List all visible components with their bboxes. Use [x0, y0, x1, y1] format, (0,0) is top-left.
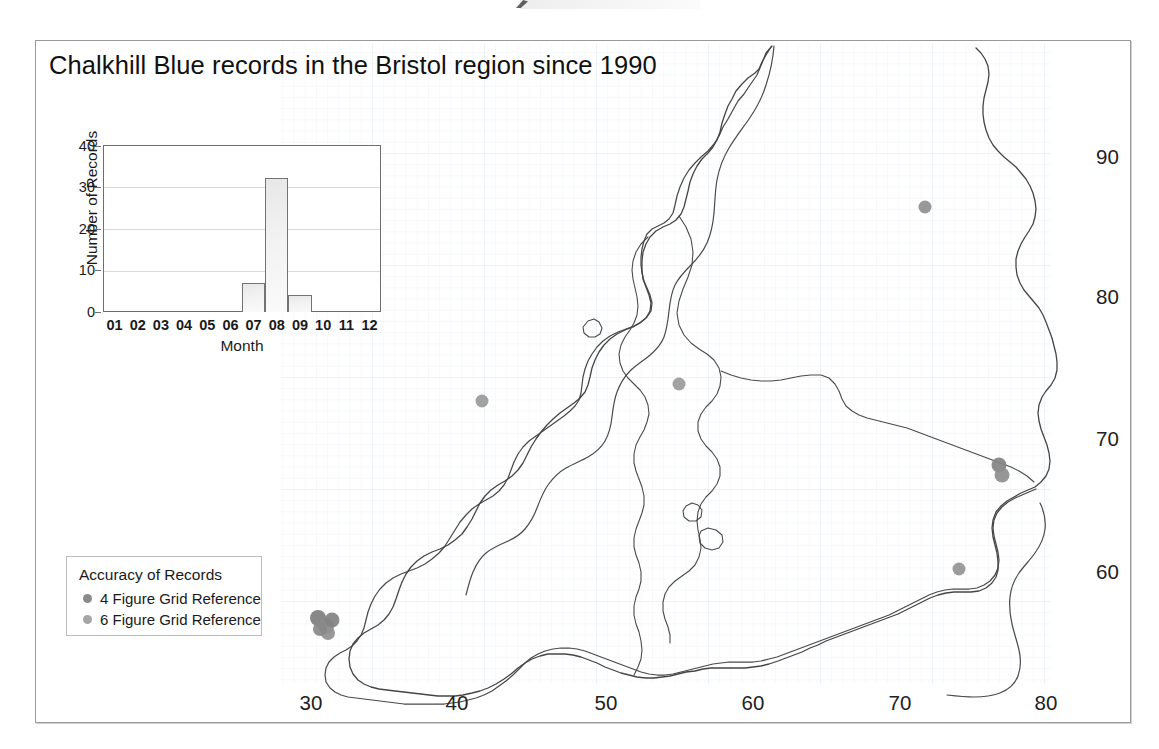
bar-cell-11: [335, 145, 358, 312]
map-y-tick-80: 80: [1096, 285, 1119, 309]
inset-x-tick-04: 04: [173, 317, 196, 333]
bar-cell-03: [149, 145, 172, 312]
inset-y-tickmark-40: [95, 146, 101, 147]
inset-x-ticks: 010203040506070809101112: [103, 317, 381, 333]
inset-x-tick-06: 06: [219, 317, 242, 333]
map-x-tick-50: 50: [576, 691, 636, 715]
inset-bars: [103, 145, 381, 312]
inset-y-tick-20: 20: [79, 221, 95, 237]
inset-y-ticks: 0 10 20 30 40: [55, 137, 99, 320]
map-x-tick-70: 70: [870, 691, 930, 715]
bar-cell-04: [173, 145, 196, 312]
legend-item-6-figure[interactable]: 6 Figure Grid Reference: [83, 611, 251, 628]
legend-dot-icon-4-figure: [83, 594, 92, 603]
bar-cell-02: [126, 145, 149, 312]
inset-x-axis-label: Month: [103, 337, 381, 355]
legend-item-4-figure[interactable]: 4 Figure Grid Reference: [83, 590, 251, 607]
bar-cell-08: [265, 145, 288, 312]
inset-y-tickmark-10: [95, 270, 101, 271]
inset-x-tick-09: 09: [288, 317, 311, 333]
inset-y-tickmark-30: [95, 187, 101, 188]
inset-y-tickmark-0: [95, 312, 101, 313]
legend-label-4-figure: 4 Figure Grid Reference: [100, 590, 261, 607]
record-point: [673, 378, 686, 391]
inset-x-tick-03: 03: [149, 317, 172, 333]
bar-09: [288, 295, 311, 312]
map-x-tick-40: 40: [427, 691, 487, 715]
inset-x-tick-08: 08: [265, 317, 288, 333]
legend-dot-icon-6-figure: [83, 615, 92, 624]
legend-label-6-figure: 6 Figure Grid Reference: [100, 611, 261, 628]
map-x-tick-80: 80: [1016, 691, 1076, 715]
inset-x-tick-05: 05: [196, 317, 219, 333]
legend-title: Accuracy of Records: [79, 566, 251, 584]
inset-x-tick-10: 10: [312, 317, 335, 333]
figure-title: Chalkhill Blue records in the Bristol re…: [49, 51, 657, 80]
inset-y-tick-10: 10: [79, 262, 95, 278]
record-point: [919, 201, 932, 214]
record-point: [953, 563, 966, 576]
bar-cell-07: [242, 145, 265, 312]
record-point: [476, 395, 489, 408]
record-point: [313, 622, 327, 636]
map-grid: [281, 44, 1051, 684]
bar-cell-06: [219, 145, 242, 312]
bar-cell-09: [288, 145, 311, 312]
bar-cell-10: [312, 145, 335, 312]
map-x-tick-60: 60: [723, 691, 783, 715]
record-point: [325, 613, 340, 628]
figure-root: Chalkhill Blue records in the Bristol re…: [0, 0, 1159, 749]
map-y-tick-70: 70: [1096, 427, 1119, 451]
bar-cell-05: [196, 145, 219, 312]
inset-bar-chart: Number of Records 0 10 20 30 40 01020304…: [55, 137, 389, 359]
inset-x-tick-12: 12: [358, 317, 381, 333]
map-legend: Accuracy of Records 4 Figure Grid Refere…: [66, 556, 262, 636]
inset-x-tick-07: 07: [242, 317, 265, 333]
bar-cell-01: [103, 145, 126, 312]
inset-y-tickmark-20: [95, 229, 101, 230]
bar-cell-12: [358, 145, 381, 312]
map-y-tick-90: 90: [1096, 145, 1119, 169]
inset-x-tick-02: 02: [126, 317, 149, 333]
inset-y-tick-40: 40: [79, 138, 95, 154]
inset-x-tick-11: 11: [335, 317, 358, 333]
inset-y-tick-0: 0: [87, 304, 95, 320]
bar-07: [242, 283, 265, 312]
bar-08: [265, 178, 288, 312]
map-y-tick-60: 60: [1096, 560, 1119, 584]
inset-y-tick-30: 30: [79, 179, 95, 195]
top-crop-artifact: [520, 0, 700, 9]
map-x-tick-30: 30: [281, 691, 341, 715]
inset-x-tick-01: 01: [103, 317, 126, 333]
record-point: [995, 468, 1010, 483]
